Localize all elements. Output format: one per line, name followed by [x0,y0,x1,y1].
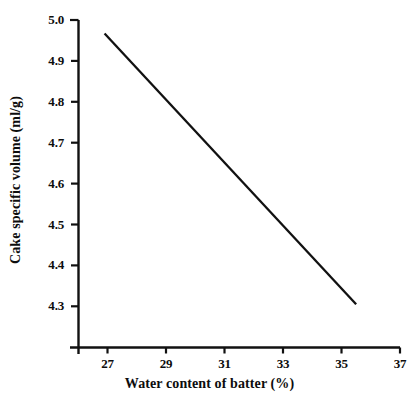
y-axis-label-text: Cake specific volume (ml/g) [8,96,24,264]
data-series-line [105,34,357,305]
y-tick-label: 4.4 [38,257,64,273]
x-tick-label: 35 [335,356,348,372]
y-tick-label: 4.5 [38,217,64,233]
x-tick-label: 33 [277,356,290,372]
y-tick-label: 4.6 [38,176,64,192]
y-axis-ticks [70,20,79,306]
x-tick-label: 27 [101,356,114,372]
x-tick-label: 37 [394,356,407,372]
y-tick-label: 4.3 [38,298,64,314]
y-tick-label: 5.0 [38,12,64,28]
y-tick-label: 4.9 [38,53,64,69]
y-axis-label: Cake specific volume (ml/g) [4,0,28,360]
x-axis-label: Water content of batter (%) [0,376,419,392]
chart-figure: 5.0 4.9 4.8 4.7 4.6 4.5 4.4 4.3 27 29 31… [0,0,419,407]
x-tick-label: 29 [160,356,173,372]
y-tick-label: 4.8 [38,94,64,110]
x-tick-label: 31 [218,356,231,372]
y-tick-label: 4.7 [38,135,64,151]
